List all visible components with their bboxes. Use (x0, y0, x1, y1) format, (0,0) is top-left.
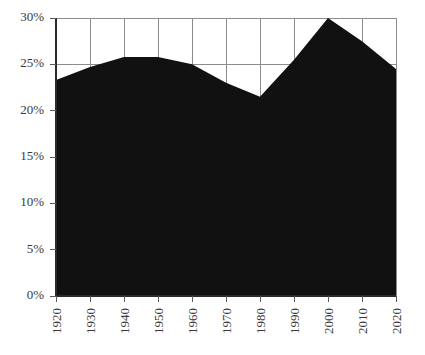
x-tick-label: 2020 (389, 308, 404, 334)
x-tick-label: 1940 (117, 308, 132, 334)
x-tick-label: 2000 (321, 308, 336, 334)
y-tick-label: 0% (27, 287, 45, 302)
x-tick-label: 1990 (287, 308, 302, 334)
y-tick-label: 25% (20, 55, 44, 70)
x-tick-label: 1950 (151, 308, 166, 334)
x-tick-label: 1970 (219, 308, 234, 334)
x-tick-label: 1920 (49, 308, 64, 334)
y-tick-label: 20% (20, 102, 44, 117)
x-tick-label: 1980 (253, 308, 268, 334)
chart-container: 0%5%10%15%20%25%30% 19201930194019501960… (0, 0, 425, 355)
y-tick-label: 30% (20, 9, 44, 24)
x-tick-label: 1930 (83, 308, 98, 334)
y-tick-label: 15% (20, 148, 44, 163)
area-chart: 0%5%10%15%20%25%30% 19201930194019501960… (0, 0, 425, 355)
y-tick-label: 10% (20, 194, 44, 209)
x-tick-label: 2010 (355, 308, 370, 334)
y-tick-label: 5% (27, 241, 45, 256)
x-tick-label: 1960 (185, 308, 200, 334)
